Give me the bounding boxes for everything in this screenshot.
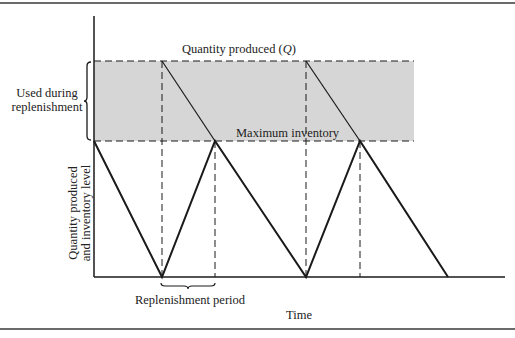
replenishment-period-brace [161, 283, 215, 289]
inventory-diagram: Quantity produced (Q) Maximum inventory … [0, 0, 515, 338]
y-axis-label: Quantity produced and inventory level [66, 164, 93, 261]
used-during-label-line2: replenishment [12, 100, 83, 114]
quantity-produced-label: Quantity produced (Q) [182, 42, 296, 56]
maximum-inventory-label: Maximum inventory [236, 126, 340, 140]
time-axis-label: Time [286, 308, 312, 322]
used-during-label-line1: Used during [16, 86, 78, 100]
replenishment-period-label: Replenishment period [135, 293, 246, 307]
used-during-brace [84, 62, 91, 140]
inventory-level-line [94, 141, 448, 277]
svg-text:and inventory level: and inventory level [79, 164, 93, 261]
bottom-border [0, 328, 515, 330]
svg-text:Quantity produced: Quantity produced [66, 166, 80, 260]
